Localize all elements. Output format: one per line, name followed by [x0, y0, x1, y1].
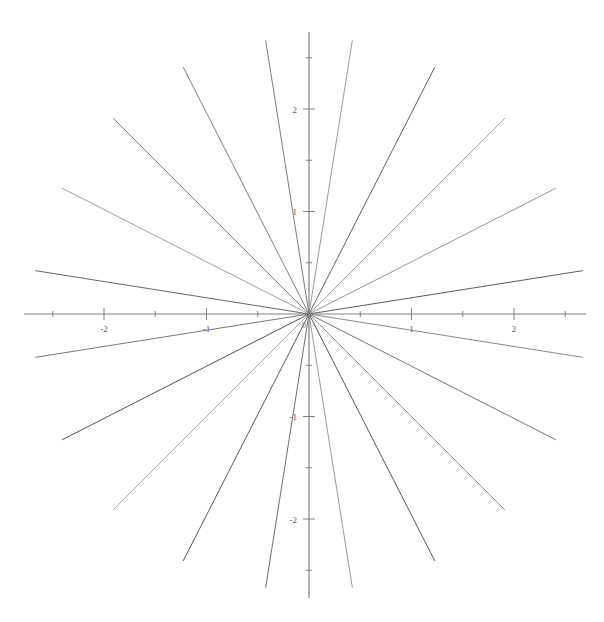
x-axis-tick-label: -1	[203, 324, 211, 334]
origin-tick-label: 0	[302, 321, 306, 330]
y-axis-tick-label: -1	[290, 412, 298, 422]
y-axis-tick-label: 2	[293, 105, 298, 115]
plot-background	[0, 0, 604, 622]
y-axis-tick-label: -2	[290, 515, 298, 525]
polar-star-plot: -2-112-2-1120	[0, 0, 604, 622]
plot-canvas: -2-112-2-1120	[0, 0, 604, 622]
x-axis-tick-label: 2	[512, 324, 517, 334]
x-axis-tick-label: 1	[409, 324, 414, 334]
x-axis-tick-label: -2	[100, 324, 108, 334]
y-axis-tick-label: 1	[293, 207, 298, 217]
